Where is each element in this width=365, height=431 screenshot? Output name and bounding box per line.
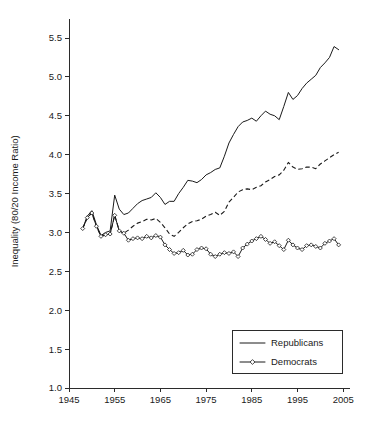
- x-tick-label: 1985: [241, 394, 262, 405]
- y-tick-label: 1.0: [49, 382, 62, 393]
- legend-label-democrats[interactable]: Democrats: [271, 356, 317, 367]
- inequality-line-chart: 1.01.52.02.53.03.54.04.55.05.5 194519551…: [0, 0, 365, 431]
- y-tick-label: 5.5: [49, 32, 62, 43]
- y-tick-label: 3.5: [49, 188, 62, 199]
- chart-figure: 1.01.52.02.53.03.54.04.55.05.5 194519551…: [0, 0, 365, 431]
- y-axis-title: Inequality (80/20 Income Ratio): [9, 135, 20, 267]
- x-tick-label: 2005: [333, 394, 354, 405]
- y-tick-label: 3.0: [49, 227, 62, 238]
- x-tick-label: 1995: [287, 394, 308, 405]
- y-tick-label: 2.0: [49, 305, 62, 316]
- legend-label-republicans[interactable]: Republicans: [271, 337, 324, 348]
- y-tick-label: 4.0: [49, 149, 62, 160]
- y-tick-label: 1.5: [49, 344, 62, 355]
- chart-legend[interactable]: RepublicansDemocrats: [232, 330, 342, 373]
- x-tick-label: 1945: [58, 394, 79, 405]
- x-tick-label: 1975: [196, 394, 217, 405]
- y-tick-label: 4.5: [49, 110, 62, 121]
- y-tick-label: 2.5: [49, 266, 62, 277]
- y-tick-label: 5.0: [49, 71, 62, 82]
- x-tick-label: 1965: [150, 394, 171, 405]
- x-tick-label: 1955: [104, 394, 125, 405]
